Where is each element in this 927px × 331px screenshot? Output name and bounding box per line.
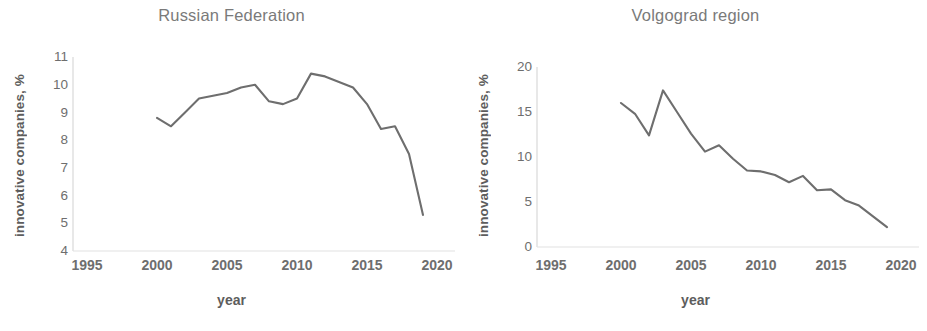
x-tick-left-2020: 2020 (409, 258, 465, 272)
x-tick-left-2000: 2000 (129, 258, 185, 272)
y-tick-left-4: 4 (34, 244, 68, 258)
y-tick-left-10: 10 (34, 78, 68, 92)
y-tick-left-8: 8 (34, 133, 68, 147)
x-tick-left-1995: 1995 (59, 258, 115, 272)
data-line-volgograd-region (621, 90, 887, 227)
x-tick-right-1995: 1995 (523, 258, 579, 272)
chart-title-volgograd-region: Volgograd region (464, 6, 927, 25)
y-tick-right-10: 10 (498, 150, 532, 164)
y-tick-right-0: 0 (498, 240, 532, 254)
x-axis-label-left: year (0, 292, 463, 308)
y-tick-left-5: 5 (34, 216, 68, 230)
x-tick-right-2000: 2000 (593, 258, 649, 272)
x-tick-left-2010: 2010 (269, 258, 325, 272)
y-axis-label-right: innovative companies, % (470, 48, 496, 263)
x-tick-left-2005: 2005 (199, 258, 255, 272)
data-line-russian-federation (157, 74, 423, 215)
y-tick-right-5: 5 (498, 195, 532, 209)
x-tick-right-2020: 2020 (873, 258, 927, 272)
chart-panel-volgograd-region: Volgograd region innovative companies, %… (464, 0, 927, 331)
chart-panel-russian-federation: Russian Federation innovative companies,… (0, 0, 463, 331)
x-axis-label-right: year (464, 292, 927, 308)
x-tick-right-2005: 2005 (663, 258, 719, 272)
chart-title-russian-federation: Russian Federation (0, 6, 463, 25)
x-tick-right-2015: 2015 (803, 258, 859, 272)
y-tick-left-7: 7 (34, 161, 68, 175)
y-tick-right-15: 15 (498, 105, 532, 119)
y-tick-right-20: 20 (498, 60, 532, 74)
y-tick-left-11: 11 (34, 50, 68, 64)
x-tick-right-2010: 2010 (733, 258, 789, 272)
plot-area-russian-federation (0, 0, 463, 331)
plot-area-volgograd-region (464, 0, 927, 331)
y-tick-left-9: 9 (34, 106, 68, 120)
y-tick-left-6: 6 (34, 189, 68, 203)
x-tick-left-2015: 2015 (339, 258, 395, 272)
figure-two-line-charts: Russian Federation innovative companies,… (0, 0, 927, 331)
y-axis-label-left: innovative companies, % (6, 48, 32, 263)
